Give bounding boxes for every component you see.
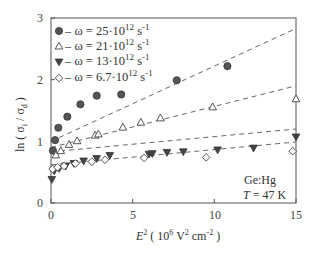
open-diamond-marker-icon <box>55 74 63 82</box>
open-triangle-point <box>292 95 300 102</box>
x-tick-0: 0 <box>48 208 54 222</box>
x-tick-15: 15 <box>290 208 302 222</box>
filled-circle-marker-icon <box>55 27 62 34</box>
filled-triangle-down-point <box>214 147 222 154</box>
sample-annotation: Ge:Hg T = 47 K <box>243 173 286 202</box>
x-tick-10: 10 <box>209 208 221 222</box>
filled-triangle-down-point <box>48 177 56 184</box>
legend: – ω = 25·1012 s-1 – ω = 21·1012 s-1 – ω … <box>55 22 153 84</box>
open-triangle-point <box>157 114 165 121</box>
open-diamond-point <box>289 147 297 155</box>
filled-circle-point <box>51 137 58 144</box>
y-tick-labels: 0 1 2 3 <box>37 11 43 210</box>
svg-text:– ω = 13·1012 s-1: – ω = 13·1012 s-1 <box>64 52 150 68</box>
y-tick-3: 3 <box>37 11 43 25</box>
filled-circle-point <box>224 63 231 70</box>
x-tick-5: 5 <box>130 208 136 222</box>
svg-text:– ω = 25·1012 s-1: – ω = 25·1012 s-1 <box>64 22 150 38</box>
filled-triangle-down-point <box>292 134 300 141</box>
filled-triangle-down-point <box>163 149 171 156</box>
x-tick-labels: 0 5 10 15 <box>48 208 302 222</box>
x-axis-label: E2 ( 106 V2 cm-2 ) <box>135 228 220 243</box>
legend-item-21: – ω = 21·1012 s-1 <box>55 37 149 53</box>
filled-circle-point <box>93 92 100 99</box>
filled-circle-point <box>118 91 125 98</box>
filled-circle-point <box>64 113 71 120</box>
open-triangle-point <box>209 103 217 110</box>
legend-item-13: – ω = 13·1012 s-1 <box>55 52 149 68</box>
filled-circle-point <box>173 77 180 84</box>
y-tick-2: 2 <box>37 73 43 87</box>
y-axis-label: ln ( σi / σd ) <box>13 97 29 152</box>
open-triangle-point <box>65 141 73 148</box>
y-tick-1: 1 <box>37 135 43 149</box>
filled-triangle-down-point <box>250 145 258 152</box>
svg-text:– ω = 21·1012 s-1: – ω = 21·1012 s-1 <box>64 37 150 53</box>
open-triangle-point <box>137 118 145 125</box>
filled-triangle-down-marker-icon <box>55 59 63 66</box>
legend-item-6-7: – ω = 6.7·1012 s-1 <box>55 68 153 84</box>
temperature-label: T = 47 K <box>243 188 286 202</box>
open-diamond-point <box>140 154 148 162</box>
filled-triangle-down-point <box>80 158 88 165</box>
open-triangle-marker-icon <box>55 42 63 49</box>
svg-text:– ω = 6.7·1012 s-1: – ω = 6.7·1012 s-1 <box>64 68 153 84</box>
material-label: Ge:Hg <box>244 173 276 187</box>
open-diamond-point <box>101 156 109 164</box>
chart-figure: 0 1 2 3 0 5 10 15 E2 ( 106 V2 cm-2 ) ln … <box>0 0 315 254</box>
open-triangle-point <box>119 123 127 130</box>
open-diamond-point <box>202 154 210 162</box>
legend-item-25: – ω = 25·1012 s-1 <box>55 22 149 38</box>
y-tick-0: 0 <box>37 196 43 210</box>
filled-circle-point <box>55 124 62 131</box>
filled-circle-point <box>77 101 84 108</box>
